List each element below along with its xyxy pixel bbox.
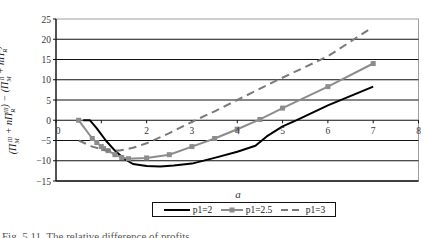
dashed-line-swatch-icon bbox=[280, 207, 304, 213]
legend-label: p1=3 bbox=[306, 205, 326, 215]
y-tick-label: 0 bbox=[46, 116, 51, 126]
data-point-marker bbox=[280, 106, 285, 111]
x-tick-label: 5 bbox=[280, 126, 285, 136]
y-tick-label: −10 bbox=[36, 156, 51, 166]
data-point-marker bbox=[212, 136, 217, 141]
x-tick-label: 8 bbox=[416, 126, 421, 136]
legend-label: p1=2 bbox=[193, 205, 213, 215]
x-tick-label: 7 bbox=[371, 126, 376, 136]
chart-legend: p1=2 p1=2.5 p1=3 bbox=[152, 202, 336, 217]
y-tick-label: 15 bbox=[42, 55, 52, 65]
x-tick-label: 3 bbox=[190, 126, 195, 136]
legend-label: p1=2.5 bbox=[246, 205, 273, 215]
data-point-marker bbox=[119, 155, 124, 160]
legend-item-p1-2.5: p1=2.5 bbox=[220, 205, 273, 215]
series-p1=2.5 bbox=[79, 64, 374, 159]
data-point-marker bbox=[371, 61, 376, 66]
y-tick-labels: 2520151050−5−10−15 bbox=[36, 15, 51, 187]
y-tick-label: 20 bbox=[42, 35, 52, 45]
marker-line-swatch-icon bbox=[220, 206, 244, 214]
data-point-marker bbox=[112, 152, 117, 157]
figure-caption: Fig. 5.11. The relative difference of pr… bbox=[2, 229, 190, 238]
data-point-marker bbox=[257, 117, 262, 122]
y-tick-label: 25 bbox=[42, 15, 52, 25]
x-tick-labels: 02345678 bbox=[56, 126, 422, 136]
solid-line-swatch-icon bbox=[163, 207, 191, 213]
data-point-marker bbox=[90, 136, 95, 141]
x-tick-label: 6 bbox=[326, 126, 331, 136]
x-tick-label: 0 bbox=[56, 126, 61, 136]
data-point-marker bbox=[144, 155, 149, 160]
x-tick-label: 2 bbox=[144, 126, 149, 136]
y-tick-label: −15 bbox=[36, 177, 51, 187]
data-point-marker bbox=[126, 156, 131, 161]
y-axis-label: (ΠMIII + nΠRIII) − (ΠMII + nΠRII) bbox=[0, 45, 20, 154]
legend-item-p1-3: p1=3 bbox=[280, 205, 326, 215]
data-point-marker bbox=[325, 84, 330, 89]
legend-item-p1-2: p1=2 bbox=[163, 205, 213, 215]
data-point-marker bbox=[167, 152, 172, 157]
x-tick-label: 4 bbox=[235, 126, 240, 136]
data-point-marker bbox=[76, 118, 81, 123]
data-series bbox=[76, 28, 376, 166]
y-tick-label: −5 bbox=[41, 136, 51, 146]
data-point-marker bbox=[94, 140, 99, 145]
data-point-marker bbox=[189, 144, 194, 149]
y-tick-label: 5 bbox=[46, 96, 51, 106]
y-tick-label: 10 bbox=[42, 75, 52, 85]
x-axis-label: a bbox=[235, 188, 241, 200]
